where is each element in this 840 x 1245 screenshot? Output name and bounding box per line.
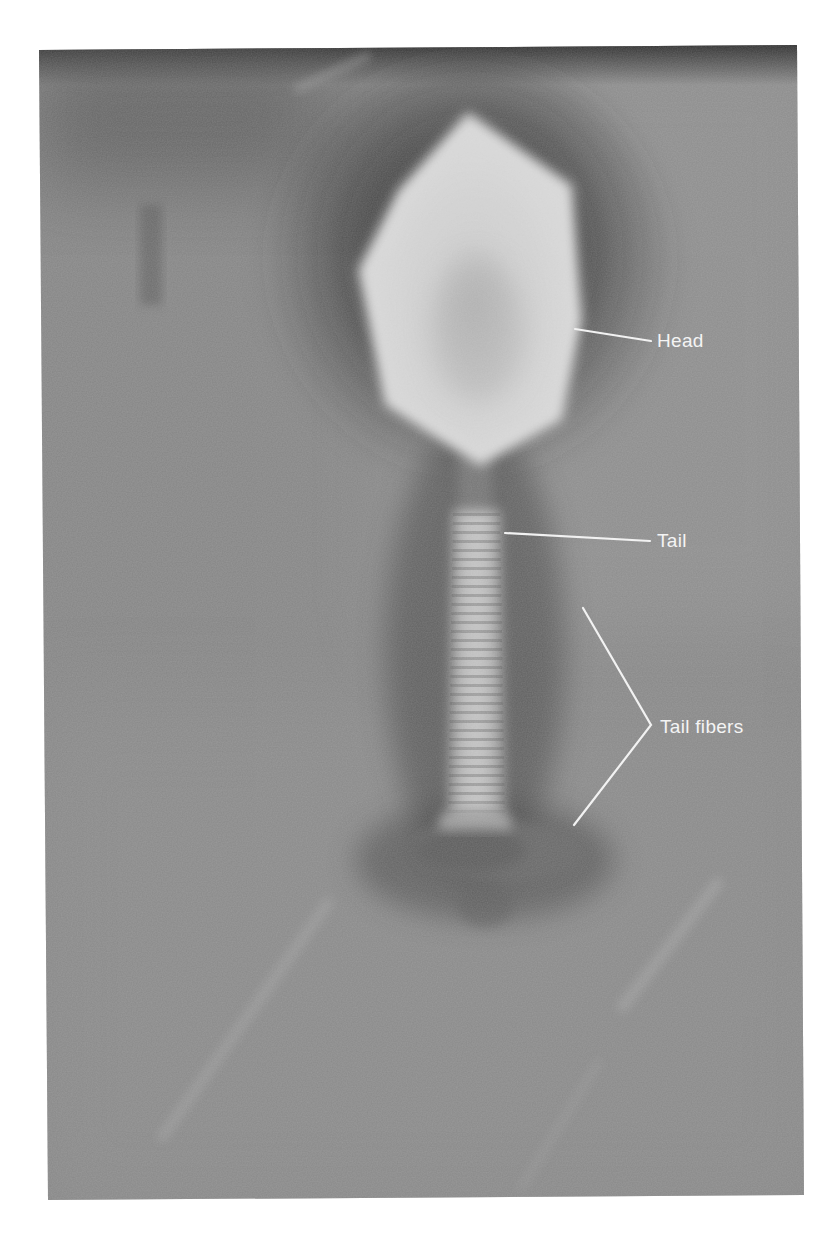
page: Head Tail Tail fibers [0,0,840,1245]
tail-fibers-label: Tail fibers [660,716,744,737]
tail-label: Tail [657,530,687,551]
head-label: Head [657,330,704,351]
phage-micrograph: Head Tail Tail fibers [0,0,840,1245]
